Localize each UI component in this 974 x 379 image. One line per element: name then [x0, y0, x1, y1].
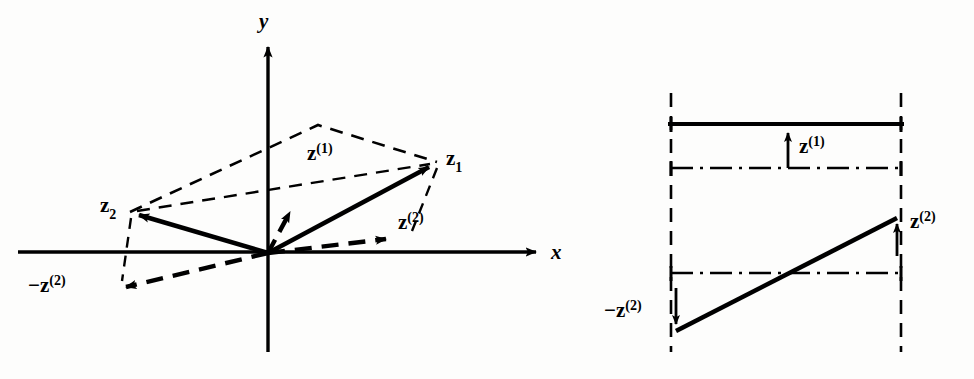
label-neg-z-sup-2: −z(2) [28, 275, 66, 296]
label-neg-z-sup-2-right: −z(2) [604, 300, 642, 321]
label-z1: z1 [446, 148, 462, 172]
label-z-sup-2-right: z(2) [910, 211, 936, 232]
figure-root: y x z1 z2 z(1) z(2) −z(2) z(1) z(2) −z(2… [0, 0, 974, 379]
label-z2: z2 [100, 195, 116, 219]
vector-z2 [139, 215, 268, 253]
label-z-sup-1: z(1) [307, 143, 333, 164]
left-panel [18, 47, 536, 352]
figure-canvas [0, 0, 974, 379]
dashed-parallelogram-upper [130, 125, 437, 212]
y-axis-label: y [259, 11, 268, 32]
label-z-sup-2: z(2) [398, 212, 424, 233]
right-panel [668, 93, 904, 352]
vector-neg-z-sup-2 [126, 253, 268, 287]
label-z-sup-1-right: z(1) [799, 136, 825, 157]
sloped-solid-line [676, 218, 897, 331]
x-axis-label: x [551, 242, 562, 263]
dashed-side-z2-negzsup2 [122, 218, 131, 281]
